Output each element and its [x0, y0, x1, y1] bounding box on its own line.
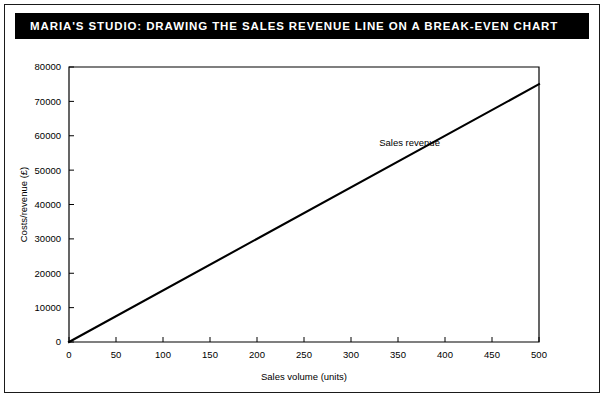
- y-tick-label: 50000: [35, 165, 61, 176]
- x-axis-title: Sales volume (units): [261, 371, 347, 382]
- x-tick-label: 100: [155, 349, 171, 360]
- y-tick-label: 30000: [35, 233, 61, 244]
- y-tick-label: 10000: [35, 302, 61, 313]
- x-tick-label: 50: [111, 349, 122, 360]
- x-axis-tick-labels: 050100150200250300350400450500: [66, 349, 547, 360]
- x-tick-label: 300: [343, 349, 359, 360]
- x-tick-label: 450: [484, 349, 500, 360]
- x-tick-label: 400: [437, 349, 453, 360]
- series-label-sales-revenue: Sales revenue: [379, 137, 440, 148]
- plot-area: 0100002000030000400005000060000700008000…: [5, 39, 599, 392]
- y-axis-tick-labels: 0100002000030000400005000060000700008000…: [35, 61, 61, 347]
- chart-svg: 0100002000030000400005000060000700008000…: [5, 39, 599, 392]
- x-tick-label: 250: [296, 349, 312, 360]
- x-tick-label: 0: [66, 349, 71, 360]
- x-axis-tick-marks: [69, 337, 539, 342]
- axis-frame: [69, 67, 539, 342]
- y-tick-label: 80000: [35, 61, 61, 72]
- y-tick-label: 40000: [35, 199, 61, 210]
- y-axis-title: Costs/revenue (£): [18, 167, 29, 243]
- chart-title: MARIA'S STUDIO: DRAWING THE SALES REVENU…: [15, 20, 558, 32]
- data-line-sales-revenue: [69, 84, 539, 342]
- x-tick-label: 200: [249, 349, 265, 360]
- series-annotations: Sales revenue: [379, 137, 440, 148]
- data-series-group: [69, 84, 539, 342]
- x-tick-label: 150: [202, 349, 218, 360]
- figure-container: MARIA'S STUDIO: DRAWING THE SALES REVENU…: [4, 4, 600, 393]
- chart-title-bar: MARIA'S STUDIO: DRAWING THE SALES REVENU…: [15, 13, 589, 39]
- y-axis-tick-marks: [69, 67, 74, 342]
- x-tick-label: 350: [390, 349, 406, 360]
- x-tick-label: 500: [531, 349, 547, 360]
- y-tick-label: 0: [56, 336, 61, 347]
- y-tick-label: 20000: [35, 268, 61, 279]
- y-tick-label: 60000: [35, 130, 61, 141]
- y-tick-label: 70000: [35, 96, 61, 107]
